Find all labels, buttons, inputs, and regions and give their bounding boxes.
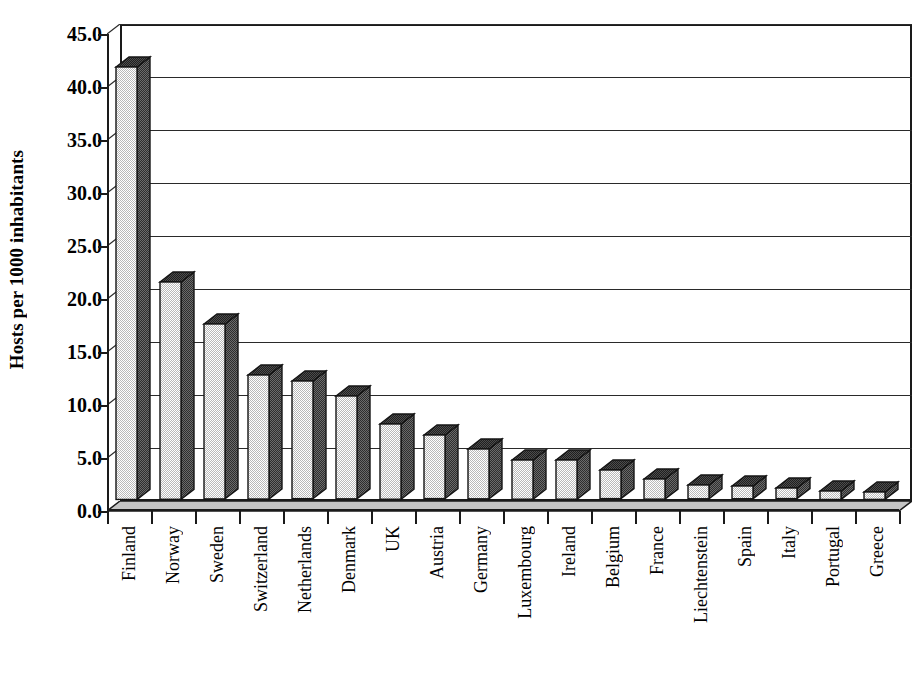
y-axis-tick-label: 5.0: [40, 448, 102, 468]
bar-chart: Hosts per 1000 inhabitants 0.05.010.015.…: [0, 0, 924, 675]
x-axis-tick-label-text: Italy: [780, 526, 798, 559]
x-axis-tick-label-text: Germany: [472, 526, 490, 593]
bar-3d-body: [380, 414, 416, 501]
x-axis-tick-label-text: Portugal: [824, 526, 842, 587]
y-axis-tick-mark: [98, 405, 108, 407]
bar: [688, 477, 722, 501]
x-axis-tick-label: Luxembourg: [503, 526, 547, 671]
bar: [204, 316, 238, 501]
y-axis-line: [107, 34, 109, 511]
x-axis-tick-label-text: Liechtenstein: [692, 526, 710, 623]
x-axis-tick-label-text: Norway: [164, 526, 182, 584]
bar-3d-body: [864, 482, 900, 501]
x-axis-tick-mark: [899, 511, 901, 524]
y-axis-tick-mark: [98, 140, 108, 142]
x-axis-tick-label-text: Austria: [428, 526, 446, 579]
x-axis-tick-label-text: Sweden: [208, 526, 226, 583]
x-axis-tick-label-text: Greece: [868, 526, 886, 577]
bar: [248, 367, 282, 501]
bar-3d-body: [556, 450, 592, 501]
x-axis-tick-label: UK: [371, 526, 415, 671]
x-axis-tick-label-text: France: [648, 526, 666, 575]
x-axis-tick-label-text: Finland: [120, 526, 138, 581]
x-axis-tick-label: Denmark: [327, 526, 371, 671]
bar: [820, 483, 854, 501]
bar-3d-body: [424, 425, 460, 501]
x-axis-tick-label: Finland: [107, 526, 151, 671]
bar: [336, 388, 370, 501]
bar-3d-body: [204, 314, 240, 501]
x-axis-tick-label-text: Ireland: [560, 526, 578, 577]
x-axis-tick-label-text: Belgium: [604, 526, 622, 588]
bar-3d-body: [776, 478, 812, 501]
x-axis-tick-label-text: Netherlands: [296, 526, 314, 613]
y-axis-tick-label: 20.0: [40, 289, 102, 309]
x-axis-tick-label: Spain: [723, 526, 767, 671]
x-axis-tick-label: Germany: [459, 526, 503, 671]
bar: [468, 441, 502, 501]
y-axis-tick-mark: [98, 458, 108, 460]
bar-3d-body: [292, 371, 328, 501]
y-axis-tick-label: 25.0: [40, 236, 102, 256]
y-axis-tick-mark: [98, 34, 108, 36]
y-axis-tick-label: 40.0: [40, 77, 102, 97]
x-axis-tick-marks: [107, 511, 912, 525]
x-axis-tick-label: Sweden: [195, 526, 239, 671]
bar: [864, 484, 898, 501]
x-axis-tick-label: Greece: [855, 526, 899, 671]
bar-3d-body: [116, 57, 152, 501]
x-axis-tick-labels: FinlandNorwaySwedenSwitzerlandNetherland…: [107, 526, 912, 675]
x-axis-tick-label: Belgium: [591, 526, 635, 671]
bar-series: [107, 24, 912, 511]
x-axis-tick-mark: [239, 511, 241, 524]
bar: [644, 471, 678, 501]
x-axis-tick-label-text: Switzerland: [252, 526, 270, 612]
plot-area: [107, 24, 912, 511]
x-axis-tick-label: Norway: [151, 526, 195, 671]
bar: [776, 480, 810, 501]
bar: [600, 462, 634, 501]
x-axis-tick-mark: [195, 511, 197, 524]
y-axis-tick-mark: [98, 352, 108, 354]
x-axis-tick-label: Italy: [767, 526, 811, 671]
bar-3d-body: [600, 460, 636, 501]
x-axis-tick-label-text: UK: [384, 526, 402, 552]
bar: [556, 452, 590, 501]
y-axis-tick-mark: [98, 299, 108, 301]
bar: [512, 452, 546, 501]
y-axis-tick-label: 45.0: [40, 24, 102, 44]
x-axis-tick-label-text: Denmark: [340, 526, 358, 593]
x-axis-tick-label: France: [635, 526, 679, 671]
bar-3d-body: [160, 272, 196, 501]
y-axis-title: Hosts per 1000 inhabitants: [0, 0, 34, 520]
y-axis-tick-mark: [98, 246, 108, 248]
bar: [424, 427, 458, 501]
x-axis-tick-mark: [371, 511, 373, 524]
y-axis-tick-label: 0.0: [40, 501, 102, 521]
bar: [732, 478, 766, 501]
bar-3d-body: [644, 469, 680, 501]
y-axis-tick-label: 35.0: [40, 130, 102, 150]
x-axis-tick-mark: [459, 511, 461, 524]
bar-3d-body: [820, 481, 856, 501]
bar: [292, 373, 326, 501]
x-axis-tick-label: Liechtenstein: [679, 526, 723, 671]
x-axis-tick-label: Portugal: [811, 526, 855, 671]
y-axis-tick-mark: [98, 87, 108, 89]
bar: [160, 274, 194, 501]
y-axis-tick-label: 15.0: [40, 342, 102, 362]
x-axis-tick-label: Switzerland: [239, 526, 283, 671]
x-axis-tick-label: Austria: [415, 526, 459, 671]
y-axis-tick-label: 10.0: [40, 395, 102, 415]
x-axis-tick-mark: [811, 511, 813, 524]
bar-3d-body: [688, 475, 724, 501]
y-axis-tick-mark: [98, 193, 108, 195]
bar-3d-body: [468, 439, 504, 501]
x-axis-tick-mark: [107, 511, 109, 524]
x-axis-tick-mark: [591, 511, 593, 524]
bar: [380, 416, 414, 501]
x-axis-tick-mark: [679, 511, 681, 524]
x-axis-tick-label-text: Luxembourg: [516, 526, 534, 619]
bar-3d-body: [336, 386, 372, 501]
x-axis-tick-mark: [855, 511, 857, 524]
